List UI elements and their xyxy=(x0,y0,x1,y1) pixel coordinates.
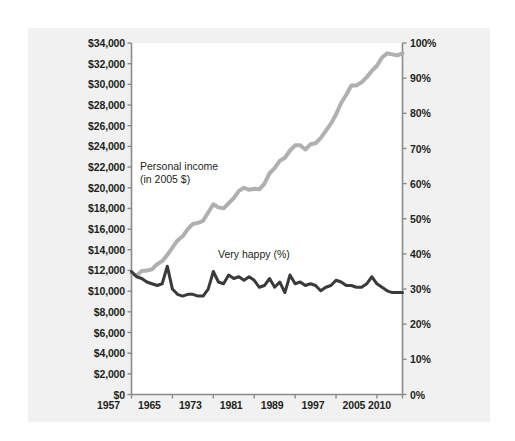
right-tick-label: 80% xyxy=(410,108,470,119)
right-tick-label: 60% xyxy=(410,178,470,189)
left-tick-label: $28,000 xyxy=(55,100,125,111)
x-tick-label: 1981 xyxy=(208,400,254,411)
tick-marks xyxy=(128,43,407,399)
left-tick-label: $32,000 xyxy=(55,58,125,69)
right-tick-label: 90% xyxy=(410,73,470,84)
very-happy-annotation: Very happy (%) xyxy=(218,248,290,261)
right-tick-label: 10% xyxy=(410,354,470,365)
left-tick-label: $24,000 xyxy=(55,141,125,152)
left-tick-label: $18,000 xyxy=(55,203,125,214)
left-tick-label: $30,000 xyxy=(55,79,125,90)
left-tick-label: $20,000 xyxy=(55,182,125,193)
x-tick-label: 1973 xyxy=(167,400,213,411)
x-tick-label: 1997 xyxy=(290,400,336,411)
left-tick-label: $34,000 xyxy=(55,38,125,49)
left-tick-label: $12,000 xyxy=(55,265,125,276)
left-tick-label: $4,000 xyxy=(55,348,125,359)
right-tick-label: 0% xyxy=(410,389,470,400)
left-tick-label: $10,000 xyxy=(55,286,125,297)
left-tick-label: $8,000 xyxy=(55,307,125,318)
left-tick-label: $2,000 xyxy=(55,369,125,380)
right-tick-label: 50% xyxy=(410,214,470,225)
left-tick-label: $26,000 xyxy=(55,120,125,131)
x-tick-label: 2010 xyxy=(357,400,403,411)
axis-lines xyxy=(131,43,403,395)
series-line-very-happy xyxy=(132,266,403,296)
left-tick-label: $16,000 xyxy=(55,224,125,235)
left-tick-label: $22,000 xyxy=(55,162,125,173)
right-tick-label: 30% xyxy=(410,284,470,295)
personal-income-annotation: Personal income (in 2005 $) xyxy=(140,160,218,186)
figure: $0$2,000$4,000$6,000$8,000$10,000$12,000… xyxy=(0,0,515,441)
x-tick-label: 1965 xyxy=(126,400,172,411)
right-tick-label: 100% xyxy=(410,38,470,49)
x-tick-label: 1957 xyxy=(86,400,132,411)
left-tick-label: $6,000 xyxy=(55,327,125,338)
right-tick-label: 40% xyxy=(410,249,470,260)
right-tick-label: 70% xyxy=(410,143,470,154)
right-tick-label: 20% xyxy=(410,319,470,330)
left-tick-label: $14,000 xyxy=(55,245,125,256)
x-tick-label: 1989 xyxy=(249,400,295,411)
